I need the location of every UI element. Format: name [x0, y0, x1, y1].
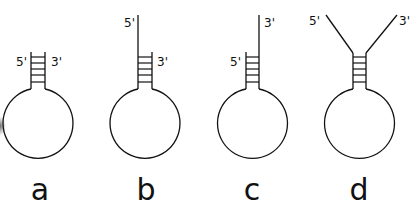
loop-d: [325, 89, 395, 158]
three-prime-label-a: 3': [51, 55, 62, 69]
five-prime-label-a: 5': [16, 55, 27, 69]
stem-c: [246, 15, 259, 89]
panel-label-b: b: [136, 172, 155, 207]
panel-b: 5' 3' b: [110, 15, 180, 207]
panel-a: 5' 3' a: [3, 52, 73, 207]
five-prime-label-c: 5': [230, 55, 241, 69]
hairpin-figure: 5' 3' a 5' 3' b 5' 3': [0, 0, 418, 213]
loop-a: [3, 89, 73, 158]
five-prime-label-b: 5': [124, 16, 135, 30]
panel-label-a: a: [31, 172, 49, 207]
panel-label-d: d: [349, 172, 368, 207]
stem-b: [138, 15, 152, 89]
stem-d: [326, 15, 397, 89]
panel-c: 5' 3' c: [218, 15, 288, 207]
panel-d: 5' 3' d: [309, 14, 410, 207]
loop-b: [110, 89, 180, 158]
three-prime-label-c: 3': [264, 16, 275, 30]
loop-c: [218, 89, 288, 158]
three-prime-label-b: 3': [157, 55, 168, 69]
panel-label-c: c: [244, 172, 261, 207]
stem-a: [31, 52, 45, 89]
five-prime-label-d: 5': [309, 14, 320, 28]
three-prime-label-d: 3': [399, 14, 410, 28]
